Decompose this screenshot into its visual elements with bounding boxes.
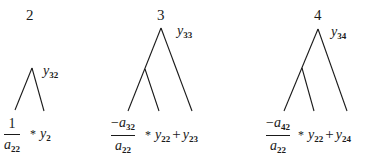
tree-3-label: 3: [157, 8, 165, 23]
tree-4-left-branch: [284, 29, 318, 111]
tree-4-right-branch: [318, 29, 347, 111]
tree-3-expression: *y22+y23: [141, 127, 198, 144]
tree-3-root-var: y33: [177, 24, 192, 40]
fraction-denominator: a22: [270, 139, 286, 155]
tree-4-middle-branch: [302, 68, 314, 111]
tree-2-root-var: y32: [43, 64, 58, 80]
tree-2-fraction: 1 a22: [4, 117, 20, 154]
tree-3-left-branch: [128, 28, 161, 111]
tree-2-expression: *y2: [26, 127, 51, 143]
fraction-bar: [266, 135, 290, 136]
fraction-numerator: −a32: [111, 116, 135, 132]
tree-2-left-branch: [15, 68, 32, 110]
tree-4-label: 4: [314, 8, 322, 23]
tree-3-right-branch: [161, 28, 192, 111]
tree-2-label: 2: [26, 8, 34, 23]
fraction-denominator: a22: [4, 138, 20, 154]
fraction-bar: [4, 134, 20, 135]
tree-4-expression: *y22+y24: [294, 127, 351, 144]
fraction-numerator: 1: [9, 117, 16, 131]
tree-4-root-var: y34: [331, 25, 346, 41]
fraction-bar: [111, 135, 135, 136]
tree-3-fraction: −a32 a22: [111, 116, 135, 155]
fraction-numerator: −a42: [266, 116, 290, 132]
fraction-denominator: a22: [115, 139, 131, 155]
tree-3-middle-branch: [145, 69, 159, 111]
tree-4-fraction: −a42 a22: [266, 116, 290, 155]
